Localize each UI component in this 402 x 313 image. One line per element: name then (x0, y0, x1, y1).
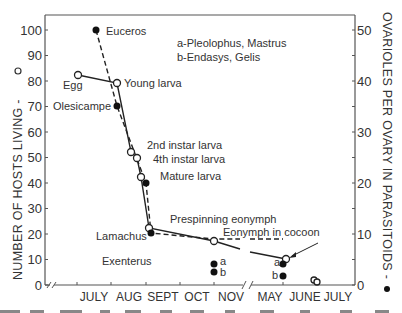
open-circle-icon (15, 68, 21, 74)
svg-text:30: 30 (357, 125, 371, 140)
filled-circle-icon (384, 286, 390, 292)
svg-text:Eonymph in cocoon: Eonymph in cocoon (223, 226, 320, 238)
svg-text:20: 20 (28, 227, 42, 242)
y-axis-title-right: OVARIOLES PER OVARY IN PARASITOIDS - (380, 12, 394, 292)
svg-text:10: 10 (357, 227, 371, 242)
y-tick-labels-right: 0 10 20 30 40 50 (357, 23, 371, 293)
svg-text:JULY: JULY (80, 290, 108, 304)
svg-text:20: 20 (357, 176, 371, 191)
svg-text:b: b (272, 269, 278, 281)
svg-text:AUG: AUG (116, 290, 142, 304)
svg-text:JUNE: JUNE (289, 290, 320, 304)
svg-text:OCT: OCT (184, 290, 210, 304)
svg-text:50: 50 (28, 150, 42, 165)
svg-text:Exenterus: Exenterus (102, 255, 152, 267)
svg-text:4th instar larva: 4th instar larva (153, 153, 226, 165)
y-axis-title-left: NUMBER OF HOSTS LIVING - (11, 68, 25, 280)
svg-text:80: 80 (28, 74, 42, 89)
svg-text:10: 10 (28, 252, 42, 267)
svg-text:Prespinning eonymph: Prespinning eonymph (170, 213, 276, 225)
svg-text:90: 90 (28, 48, 42, 63)
svg-text:0: 0 (35, 278, 42, 293)
svg-text:NOV: NOV (218, 290, 244, 304)
svg-text:Egg: Egg (63, 79, 83, 91)
svg-text:SEPT: SEPT (147, 290, 179, 304)
svg-text:a-Pleolophus, Mastrus: a-Pleolophus, Mastrus (177, 37, 287, 49)
annotations: Euceros Egg Young larva Olesicampe 2nd i… (53, 25, 320, 281)
chart: 0 10 20 30 40 50 60 70 80 90 100 0 10 20… (0, 0, 402, 313)
svg-text:2nd instar larva: 2nd instar larva (147, 139, 223, 151)
legend: a-Pleolophus, Mastrus b-Endasys, Gelis (177, 37, 287, 63)
svg-text:Mature larva: Mature larva (160, 170, 222, 182)
svg-text:b: b (220, 266, 226, 278)
x-tick-labels: JULY AUG SEPT OCT NOV MAY JUNE JULY (80, 290, 352, 304)
svg-text:NUMBER OF HOSTS LIVING -: NUMBER OF HOSTS LIVING - (11, 99, 25, 280)
svg-text:Young larva: Young larva (124, 77, 183, 89)
svg-text:Euceros: Euceros (106, 25, 147, 37)
svg-text:30: 30 (28, 201, 42, 216)
svg-text:a: a (274, 256, 281, 268)
svg-text:Olesicampe: Olesicampe (53, 100, 111, 112)
svg-text:MAY: MAY (257, 290, 282, 304)
svg-text:50: 50 (357, 23, 371, 38)
svg-text:40: 40 (357, 74, 371, 89)
svg-text:b-Endasys, Gelis: b-Endasys, Gelis (177, 51, 261, 63)
svg-text:70: 70 (28, 99, 42, 114)
svg-text:100: 100 (20, 23, 42, 38)
svg-text:60: 60 (28, 125, 42, 140)
svg-text:0: 0 (357, 278, 364, 293)
svg-text:JULY: JULY (324, 290, 352, 304)
svg-text:Lamachus: Lamachus (96, 230, 147, 242)
svg-text:40: 40 (28, 176, 42, 191)
svg-text:OVARIOLES PER OVARY IN PARASIT: OVARIOLES PER OVARY IN PARASITOIDS - (380, 12, 394, 279)
